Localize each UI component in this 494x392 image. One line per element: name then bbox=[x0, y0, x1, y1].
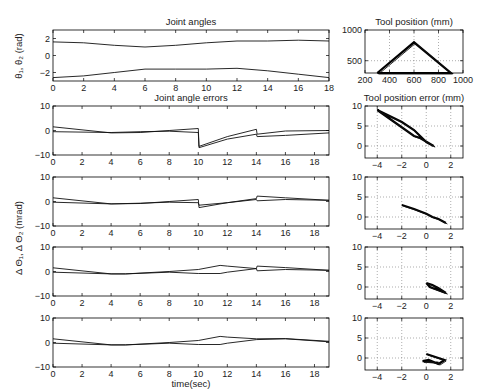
subplot-4: −4−2020510 bbox=[352, 101, 463, 170]
y-tick-label: 10 bbox=[40, 101, 50, 111]
series-e1 bbox=[53, 336, 329, 345]
tool-position-title: Tool position (mm) bbox=[375, 16, 453, 27]
subplot-2: 20040060080010005001000 bbox=[342, 25, 473, 85]
tool-error-title: Tool position error (mm) bbox=[364, 92, 464, 103]
x-tick-label: −4 bbox=[372, 231, 382, 241]
y-tick-label: 10 bbox=[352, 242, 362, 252]
series-e2 bbox=[53, 269, 329, 274]
y-tick-label: 10 bbox=[352, 172, 362, 182]
x-tick-label: 18 bbox=[309, 228, 319, 238]
y-tick-label: 0 bbox=[45, 126, 50, 136]
x-tick-label: 18 bbox=[309, 298, 319, 308]
x-tick-label: 6 bbox=[138, 157, 143, 167]
x-tick-label: 10 bbox=[193, 228, 203, 238]
x-tick-label: 10 bbox=[193, 298, 203, 308]
y-tick-label: 10 bbox=[40, 242, 50, 252]
y-tick-label: 5 bbox=[357, 333, 362, 343]
x-tick-label: 1000 bbox=[453, 75, 473, 85]
x-tick-label: 0 bbox=[50, 228, 55, 238]
y-tick-label: 0 bbox=[357, 353, 362, 363]
y-tick-label: 0 bbox=[357, 212, 362, 222]
x-tick-label: 2 bbox=[448, 160, 453, 170]
y-tick-label: 10 bbox=[40, 172, 50, 182]
x-tick-label: 12 bbox=[222, 228, 232, 238]
x-tick-label: −2 bbox=[397, 372, 407, 382]
x-tick-label: 10 bbox=[193, 369, 203, 379]
top-ylabel: θ₁, θ₂ (rad) bbox=[13, 33, 24, 78]
error-ylabel: Δ Θ₁, Δ Θ₂ (mrad) bbox=[13, 201, 24, 275]
y-tick-label: 0 bbox=[357, 282, 362, 292]
x-tick-label: 2 bbox=[81, 83, 86, 93]
x-tick-label: 12 bbox=[222, 298, 232, 308]
series-theta2 bbox=[53, 68, 329, 77]
x-tick-label: 8 bbox=[167, 228, 172, 238]
x-tick-label: 8 bbox=[173, 83, 178, 93]
joint-errors-title: Joint angle errors bbox=[154, 92, 228, 103]
x-tick-label: −2 bbox=[397, 231, 407, 241]
x-tick-label: 4 bbox=[109, 298, 114, 308]
x-tick-label: 2 bbox=[80, 298, 85, 308]
x-tick-label: 16 bbox=[280, 298, 290, 308]
plot-area: 024681012141618−202200400600800100050010… bbox=[35, 25, 473, 382]
axes-box bbox=[53, 106, 329, 155]
x-tick-label: 6 bbox=[138, 298, 143, 308]
x-tick-label: 6 bbox=[138, 369, 143, 379]
y-tick-label: 10 bbox=[352, 313, 362, 323]
axes-box bbox=[53, 247, 329, 296]
x-tick-label: 6 bbox=[142, 83, 147, 93]
subplot-7: 024681012141618−10010 bbox=[35, 242, 329, 308]
x-tick-label: 14 bbox=[251, 369, 261, 379]
x-tick-label: 18 bbox=[324, 83, 334, 93]
y-tick-label: 0 bbox=[45, 267, 50, 277]
x-tick-label: 0 bbox=[424, 231, 429, 241]
x-tick-label: 0 bbox=[424, 160, 429, 170]
y-tick-label: 5 bbox=[357, 192, 362, 202]
axes-box bbox=[53, 318, 329, 367]
x-tick-label: 2 bbox=[80, 369, 85, 379]
x-tick-label: 800 bbox=[431, 75, 446, 85]
x-tick-label: 12 bbox=[222, 369, 232, 379]
y-tick-label: −10 bbox=[35, 362, 50, 372]
y-tick-label: 0 bbox=[45, 51, 50, 61]
x-tick-label: 2 bbox=[448, 372, 453, 382]
y-tick-label: 1000 bbox=[342, 25, 362, 35]
x-tick-label: 14 bbox=[251, 228, 261, 238]
x-tick-label: 400 bbox=[382, 75, 397, 85]
x-tick-label: 8 bbox=[167, 298, 172, 308]
x-tick-label: −4 bbox=[372, 160, 382, 170]
y-tick-label: 10 bbox=[352, 101, 362, 111]
x-tick-label: 4 bbox=[109, 228, 114, 238]
subplot-10: −4−2020510 bbox=[352, 313, 463, 382]
x-tick-label: −4 bbox=[372, 301, 382, 311]
y-tick-label: −10 bbox=[35, 150, 50, 160]
x-tick-label: 6 bbox=[138, 228, 143, 238]
x-tick-label: 600 bbox=[406, 75, 421, 85]
x-tick-label: 0 bbox=[50, 83, 55, 93]
x-tick-label: 16 bbox=[280, 369, 290, 379]
y-tick-label: 0 bbox=[45, 197, 50, 207]
x-tick-label: −2 bbox=[397, 301, 407, 311]
x-tick-label: 4 bbox=[112, 83, 117, 93]
series-e2 bbox=[53, 339, 329, 345]
x-tick-label: 12 bbox=[222, 157, 232, 167]
subplot-8: −4−2020510 bbox=[352, 242, 463, 311]
x-tick-label: 200 bbox=[357, 75, 372, 85]
subplot-9: 024681012141618−10010 bbox=[35, 313, 329, 379]
axes-box bbox=[53, 177, 329, 226]
series-e1 bbox=[53, 127, 329, 147]
x-tick-label: 16 bbox=[280, 157, 290, 167]
y-tick-label: 10 bbox=[40, 313, 50, 323]
x-tick-label: 14 bbox=[251, 157, 261, 167]
y-tick-label: 5 bbox=[357, 262, 362, 272]
x-tick-label: 4 bbox=[109, 369, 114, 379]
y-tick-label: 0 bbox=[357, 141, 362, 151]
x-tick-label: 14 bbox=[263, 83, 273, 93]
x-tick-label: 2 bbox=[448, 301, 453, 311]
x-tick-label: 0 bbox=[50, 157, 55, 167]
x-tick-label: 18 bbox=[309, 369, 319, 379]
time-xlabel: time(sec) bbox=[171, 378, 210, 389]
x-tick-label: 0 bbox=[50, 298, 55, 308]
x-tick-label: 2 bbox=[80, 228, 85, 238]
subplot-6: −4−2020510 bbox=[352, 172, 463, 241]
x-tick-label: 0 bbox=[424, 301, 429, 311]
